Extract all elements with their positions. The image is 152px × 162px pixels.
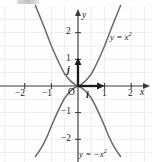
plot-canvas [0, 0, 152, 162]
x-tick-label-neg1: −1 [42, 89, 52, 99]
x-tick-label-neg2: −2 [15, 89, 25, 99]
j-vector-arrow [75, 58, 82, 87]
curve-label-up-base: y = x [110, 32, 129, 42]
y-tick-label-1: 1 [66, 54, 71, 64]
curve-label-up-exponent: 2 [129, 30, 132, 37]
origin-label: O [68, 88, 75, 98]
parabola-figure: −2 −1 1 2 2 1 −1 −2 O x y i j y = x2 y =… [0, 0, 152, 162]
curve-label-down-base: y = −x [79, 149, 104, 159]
y-axis-label: y [82, 11, 86, 21]
curve-label-parabola-down: y = −x2 [79, 148, 107, 159]
y-tick-label-2: 2 [66, 27, 71, 37]
y-axis-arrowhead [75, 9, 81, 16]
curve-label-parabola-up: y = x2 [110, 31, 132, 42]
y-tick-label-neg1: −1 [61, 107, 71, 117]
x-axis-label: x [140, 88, 144, 98]
x-tick-label-2: 2 [128, 89, 133, 99]
i-vector-label: i [86, 90, 89, 100]
y-tick-label-neg2: −2 [61, 134, 71, 144]
x-tick-label-1: 1 [102, 89, 107, 99]
j-vector-label: j [67, 65, 70, 75]
curve-label-down-exponent: 2 [104, 147, 107, 154]
